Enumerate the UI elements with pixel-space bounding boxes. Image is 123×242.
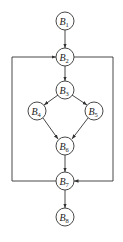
node-b1-subscript: 1 xyxy=(66,21,69,28)
node-b4: B4 xyxy=(28,102,46,120)
node-b2-subscript: 2 xyxy=(66,57,69,64)
node-b1: B1 xyxy=(56,12,74,30)
node-b6: B6 xyxy=(56,137,74,155)
node-b8-subscript: 8 xyxy=(66,217,69,224)
node-b5-subscript: 5 xyxy=(95,111,98,118)
control-flow-graph: B1 B2 B3 B4 B5 B6 B7 B8 xyxy=(0,0,123,242)
edge-b3-b5 xyxy=(72,95,87,105)
node-b3-subscript: 3 xyxy=(66,90,69,97)
node-b8: B8 xyxy=(56,208,74,226)
node-b5: B5 xyxy=(85,102,103,120)
edge-b3-b4 xyxy=(44,95,58,105)
node-b7: B7 xyxy=(56,172,74,190)
node-b2: B2 xyxy=(56,48,74,66)
edge-b5-b6 xyxy=(72,118,88,139)
edge-b4-b6 xyxy=(43,118,58,139)
node-b3: B3 xyxy=(56,81,74,99)
